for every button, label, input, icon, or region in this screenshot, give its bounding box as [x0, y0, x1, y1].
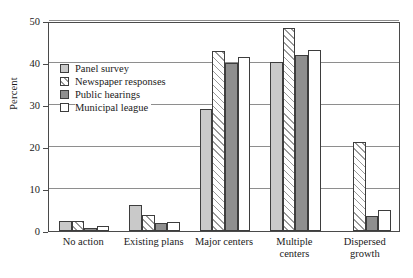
x-tick-label-line: centers [259, 248, 329, 260]
bar [225, 63, 238, 231]
legend-label: Panel survey [75, 63, 132, 74]
legend-swatch-icon [60, 90, 69, 99]
x-tick-label-line: Existing plans [118, 236, 188, 248]
bar [353, 142, 366, 231]
legend-swatch-icon [60, 64, 69, 73]
x-tick-label-line: No action [48, 236, 118, 248]
x-tick-label: Major centers [189, 236, 259, 248]
bar [129, 205, 142, 231]
bar-group [59, 23, 109, 231]
plot-area [48, 22, 400, 232]
bar-group [200, 23, 250, 231]
y-tick-label: 10 [4, 185, 40, 195]
bar [212, 51, 225, 231]
bar [295, 55, 308, 231]
legend-item: Panel survey [60, 62, 169, 75]
x-tick-label: No action [48, 236, 118, 248]
y-tick-label: 0 [4, 227, 40, 237]
x-tick-label-line: Major centers [189, 236, 259, 248]
legend-label: Municipal league [75, 102, 151, 113]
bar [142, 215, 155, 231]
bar [238, 57, 251, 231]
y-tick-label: 20 [4, 143, 40, 153]
x-tick-label-line: Dispersed [330, 236, 400, 248]
x-tick-label-line: growth [330, 248, 400, 260]
x-tick-label: Multiplecenters [259, 236, 329, 260]
bar-group [129, 23, 179, 231]
bar [308, 50, 321, 231]
legend-item: Public hearings [60, 88, 169, 101]
bar [155, 223, 168, 231]
legend-item: Newspaper responses [60, 75, 169, 88]
y-axis: 01020304050 [0, 0, 48, 232]
legend: Panel surveyNewspaper responsesPublic he… [60, 62, 169, 114]
bar-chart: Percent 01020304050 No actionExisting pl… [0, 0, 413, 278]
bar-group [341, 23, 391, 231]
x-tick-label: Dispersedgrowth [330, 236, 400, 260]
legend-item: Municipal league [60, 101, 169, 114]
y-tick-mark [43, 232, 48, 233]
x-tick-label: Existing plans [118, 236, 188, 248]
bar [167, 222, 180, 231]
legend-label: Public hearings [75, 89, 143, 100]
legend-label: Newspaper responses [75, 76, 169, 87]
bar [97, 226, 110, 231]
bar [270, 62, 283, 231]
bar [72, 221, 85, 231]
bar [84, 228, 97, 231]
bar [378, 210, 391, 231]
x-tick-label-line: Multiple [259, 236, 329, 248]
bar [59, 221, 72, 231]
bar-group [270, 23, 320, 231]
gridline [49, 20, 399, 21]
bar [366, 216, 379, 231]
bar [283, 28, 296, 231]
y-tick-label: 50 [4, 17, 40, 27]
legend-swatch-icon [60, 103, 69, 112]
y-tick-label: 30 [4, 101, 40, 111]
bar [200, 109, 213, 231]
y-tick-label: 40 [4, 59, 40, 69]
legend-swatch-icon [60, 77, 69, 86]
